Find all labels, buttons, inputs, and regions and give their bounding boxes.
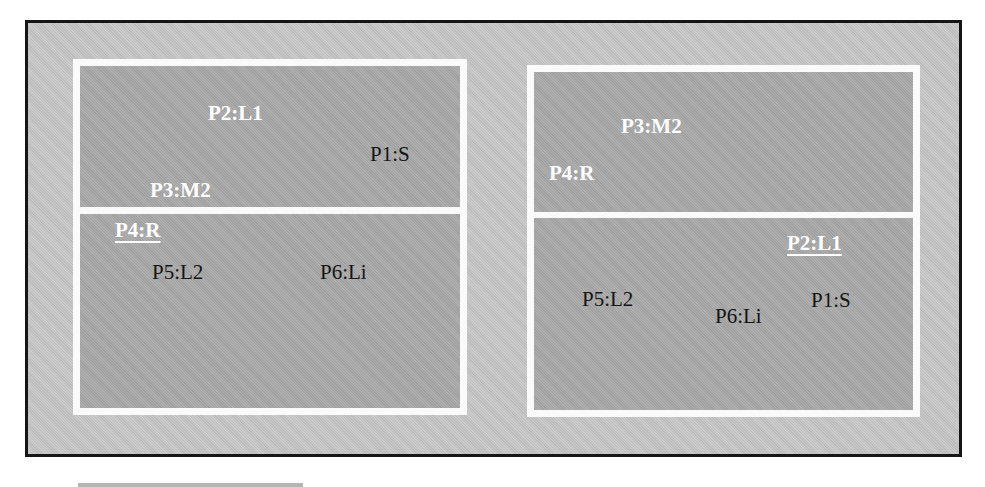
right-top-section: P3:M2 P4:R bbox=[534, 72, 913, 212]
right-bottom-label-p2-l1: P2:L1 bbox=[787, 232, 842, 254]
right-panel: P3:M2 P4:R P2:L1 P5:L2 P1:S P6:Li bbox=[527, 65, 920, 417]
right-bottom-label-p1-s: P1:S bbox=[811, 289, 851, 311]
left-top-label-p3-m2: P3:M2 bbox=[150, 179, 211, 201]
left-top-label-p2-l1: P2:L1 bbox=[208, 102, 263, 124]
right-top-label-p4-r: P4:R bbox=[549, 162, 595, 184]
right-bottom-label-p6-li: P6:Li bbox=[715, 305, 762, 327]
right-bottom-section: P2:L1 P5:L2 P1:S P6:Li bbox=[534, 218, 913, 410]
right-top-label-p3-m2: P3:M2 bbox=[621, 115, 682, 137]
left-panel: P2:L1 P1:S P3:M2 P4:R P5:L2 P6:Li bbox=[73, 59, 467, 415]
left-bottom-label-p4-r: P4:R bbox=[115, 219, 161, 241]
left-bottom-label-p5-l2: P5:L2 bbox=[152, 261, 203, 283]
footnote-rule bbox=[78, 483, 303, 487]
left-top-label-p1-s: P1:S bbox=[370, 143, 410, 165]
left-top-section: P2:L1 P1:S P3:M2 bbox=[80, 66, 460, 207]
left-bottom-section: P4:R P5:L2 P6:Li bbox=[80, 214, 460, 408]
right-bottom-label-p5-l2: P5:L2 bbox=[582, 288, 633, 310]
left-bottom-label-p6-li: P6:Li bbox=[320, 261, 367, 283]
diagram-frame: P2:L1 P1:S P3:M2 P4:R P5:L2 P6:Li P3:M2 … bbox=[25, 20, 962, 457]
